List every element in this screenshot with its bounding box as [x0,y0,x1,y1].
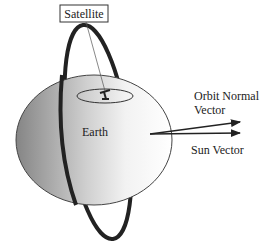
satellite-label: Satellite [64,7,103,21]
sun-vector-label: Sun Vector [191,143,244,157]
earth-globe [16,75,172,205]
orbit-normal-label-line2: Vector [194,103,225,117]
orbit-normal-label-line1: Orbit Normal [194,89,260,103]
earth-label: Earth [82,125,108,139]
diagram-canvas: Satellite Earth Orbit Normal Vector Sun … [0,0,274,252]
orbit-diagram: Satellite Earth Orbit Normal Vector Sun … [0,0,274,252]
